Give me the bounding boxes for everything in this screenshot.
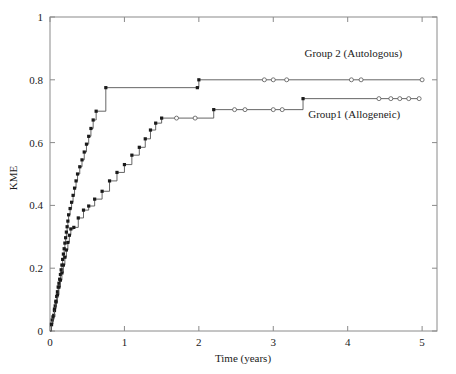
event-marker (160, 117, 163, 120)
event-marker (60, 268, 63, 271)
censored-marker (417, 97, 421, 101)
event-marker (85, 143, 88, 146)
x-tick-label: 0 (47, 336, 53, 348)
kaplan-meier-figure: 012345 00.20.40.60.81 Time (years) KME G… (0, 0, 456, 374)
x-tick-label: 2 (196, 336, 202, 348)
event-marker (212, 108, 215, 111)
event-marker (66, 220, 69, 223)
event-marker (95, 110, 98, 113)
event-marker (72, 226, 75, 229)
y-tick-label: 0.2 (29, 262, 43, 274)
event-marker (74, 179, 77, 182)
event-marker (149, 128, 152, 131)
event-marker (144, 137, 147, 140)
event-marker (154, 122, 157, 125)
censored-marker (389, 97, 393, 101)
event-marker (92, 118, 95, 121)
event-marker (93, 198, 96, 201)
event-marker (68, 207, 71, 210)
event-marker (65, 248, 68, 251)
event-marker (60, 271, 63, 274)
event-marker (56, 293, 59, 296)
censored-marker (285, 78, 289, 82)
censored-marker (377, 97, 381, 101)
event-marker (76, 172, 79, 175)
event-marker (71, 194, 74, 197)
censored-marker (175, 116, 179, 120)
event-marker (100, 190, 103, 193)
censored-marker (271, 78, 275, 82)
censored-marker (398, 97, 402, 101)
censored-marker (233, 108, 237, 112)
event-marker (62, 263, 65, 266)
y-tick-label: 1 (38, 11, 44, 23)
event-marker (66, 225, 69, 228)
event-marker (196, 86, 199, 89)
event-marker (83, 150, 86, 153)
event-marker (57, 285, 60, 288)
x-axis-title: Time (years) (215, 352, 271, 365)
y-tick-label: 0 (38, 325, 44, 337)
x-tick-label: 4 (345, 336, 351, 348)
y-tick-label: 0.4 (29, 199, 43, 211)
y-axis-title: KME (7, 166, 19, 191)
event-marker (68, 234, 71, 237)
x-tick-label: 5 (419, 336, 425, 348)
y-tick-label: 0.6 (29, 137, 43, 149)
event-marker (70, 201, 73, 204)
event-marker (197, 78, 200, 81)
event-marker (87, 135, 90, 138)
censored-marker (193, 116, 197, 120)
event-marker (82, 209, 85, 212)
event-marker (65, 230, 68, 233)
event-marker (89, 127, 92, 130)
event-marker (51, 315, 54, 318)
censored-marker (262, 78, 266, 82)
event-marker (77, 216, 80, 219)
censored-marker (349, 78, 353, 82)
event-marker (301, 97, 304, 100)
censored-marker (359, 78, 363, 82)
y-tick-label: 0.8 (29, 74, 43, 86)
event-marker (62, 252, 65, 255)
event-marker (123, 163, 126, 166)
event-marker (63, 256, 66, 259)
event-marker (50, 322, 53, 325)
censored-marker (420, 78, 424, 82)
event-marker (130, 154, 133, 157)
event-marker (78, 165, 81, 168)
x-tick-label: 1 (122, 336, 128, 348)
censored-marker (243, 108, 247, 112)
event-marker (108, 179, 111, 182)
event-marker (63, 241, 66, 244)
event-marker (87, 204, 90, 207)
event-marker (80, 158, 83, 161)
event-marker (66, 241, 69, 244)
x-tick-label: 3 (271, 336, 277, 348)
event-marker (67, 213, 70, 216)
censored-marker (271, 108, 275, 112)
event-marker (64, 236, 67, 239)
event-marker (115, 171, 118, 174)
series-label-1: Group 2 (Autologous) (305, 47, 403, 60)
event-marker (138, 146, 141, 149)
censored-marker (407, 97, 411, 101)
event-marker (104, 86, 107, 89)
series-label-2: Group1 (Allogeneic) (308, 108, 400, 121)
event-marker (73, 187, 76, 190)
event-marker (59, 279, 62, 282)
event-marker (69, 227, 72, 230)
censored-marker (280, 108, 284, 112)
event-marker (53, 307, 56, 310)
event-marker (54, 301, 57, 304)
chart-canvas: 012345 00.20.40.60.81 Time (years) KME G… (0, 0, 456, 374)
